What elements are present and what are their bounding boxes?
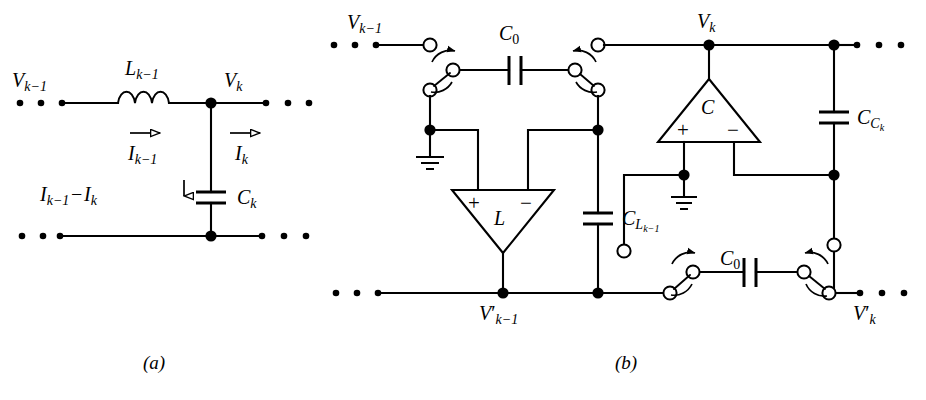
ellipsis-left-bottom-a: [19, 233, 47, 240]
amp-c-minus-sign: −: [727, 118, 739, 143]
label-current-i-k-minus-1: Ik−1: [128, 143, 157, 167]
ellipsis-right-top-b: [854, 42, 905, 49]
node-cck-mid: [828, 169, 839, 180]
ellipsis-left-top-b: [331, 42, 380, 49]
caption-a: (a): [143, 352, 165, 374]
capacitor-cck-symbol: [819, 112, 849, 123]
inductor-symbol: [118, 92, 211, 103]
capacitor-cl-symbol: [583, 213, 613, 224]
label-c0-top: C0: [499, 23, 519, 47]
label-v-k-minus-1-prime: V′k−1: [479, 303, 518, 327]
label-current-i-k: Ik: [235, 143, 248, 167]
label-c0-bottom: C0: [720, 248, 740, 272]
ground-symbol-left: [416, 130, 444, 169]
circuit-b-group: [331, 38, 908, 299]
ellipsis-left-top-a: [17, 100, 66, 107]
caption-b: (b): [615, 352, 637, 374]
amp-l-minus-sign: −: [520, 191, 532, 216]
circuit-a-group: [17, 92, 313, 242]
label-capacitor-clk1: CLk−1: [622, 208, 659, 234]
label-capacitor-ck: Ck: [237, 187, 257, 211]
label-v-k-b: Vk: [697, 11, 715, 35]
capacitor-ck-symbol: [196, 192, 226, 203]
wire-b-c-minus: [734, 142, 834, 175]
amp-l-plus-sign: +: [468, 191, 480, 216]
amp-l-label: L: [494, 207, 505, 230]
rotary-switch-top-left[interactable]: [423, 38, 459, 96]
label-v-k-minus-1-b: Vk−1: [347, 12, 382, 36]
ellipsis-right-bottom-a: [259, 233, 310, 240]
label-capacitor-cck: CCk: [857, 107, 884, 133]
figure-container: Vk−1 Lk−1 Vk Ik−1 Ik Ik−1 − Ik Ck Vk−1 C…: [0, 0, 926, 400]
label-v-k-a: Vk: [224, 70, 242, 94]
amp-c-label: C: [701, 96, 714, 119]
wire-b-l-minus-input: [528, 130, 598, 190]
amp-c-plus-sign: +: [677, 118, 689, 143]
ground-symbol-right: [671, 175, 697, 209]
ellipsis-right-bottom-b: [857, 290, 908, 297]
ellipsis-dot-bottom-a: [57, 233, 64, 240]
rotary-switch-bottom-left[interactable]: [617, 244, 699, 299]
wire-b-l-plus-input: [430, 130, 478, 190]
ellipsis-right-top-a: [263, 100, 313, 107]
label-v-k-prime: V′k: [853, 303, 876, 327]
label-v-k-minus-1-a: Vk−1: [12, 70, 47, 94]
capacitor-c0-bottom-symbol: [744, 258, 756, 287]
ellipsis-left-bottom-b: [333, 290, 382, 297]
rotary-switch-top-right[interactable]: [568, 38, 604, 96]
capacitor-c0-top-symbol: [509, 56, 521, 85]
label-current-difference: Ik−1 − Ik: [40, 184, 97, 208]
label-inductor-lk1: Lk−1: [125, 58, 159, 82]
